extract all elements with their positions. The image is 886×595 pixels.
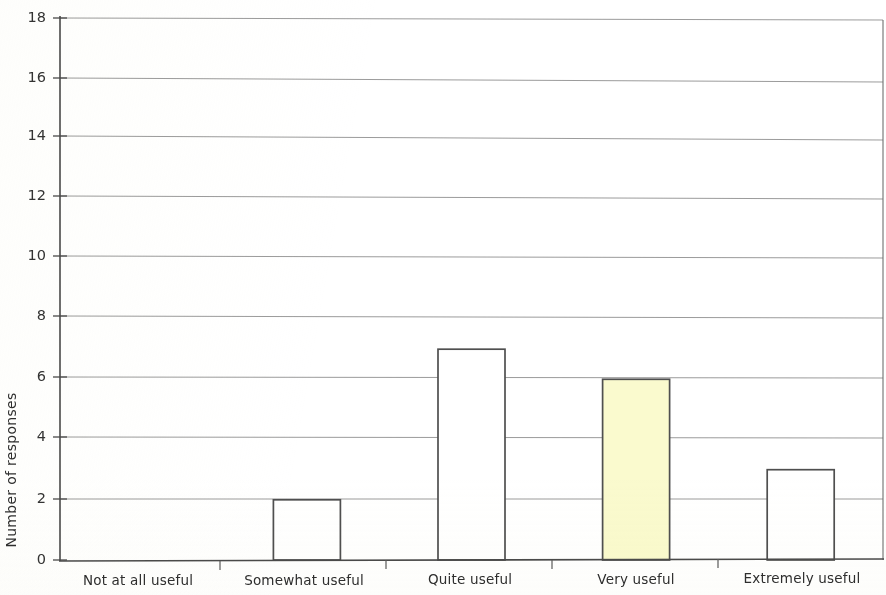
y-tick-label: 6 bbox=[37, 368, 46, 384]
bar-not-at-all-useful bbox=[273, 500, 340, 560]
y-tick-labels: 18 16 14 12 10 8 6 4 2 0 bbox=[28, 9, 46, 567]
x-tick-label-extremely-useful: Extremely useful bbox=[743, 570, 860, 586]
x-tick-labels: Not at all useful Somewhat useful Quite … bbox=[83, 570, 861, 588]
y-tick-label: 8 bbox=[37, 307, 46, 323]
y-tick-label: 18 bbox=[28, 9, 46, 25]
y-tick-label: 4 bbox=[37, 428, 46, 444]
x-axis-line bbox=[59, 559, 884, 561]
gridline-10 bbox=[60, 256, 883, 258]
gridline-12 bbox=[60, 196, 883, 199]
bar-somewhat-useful bbox=[438, 349, 505, 560]
y-axis-title: Number of responses bbox=[3, 392, 19, 547]
gridline-16 bbox=[60, 78, 883, 82]
y-tick-label: 10 bbox=[28, 247, 46, 263]
gridline-14 bbox=[60, 136, 883, 140]
gridline-18 bbox=[60, 18, 883, 20]
gridline-8 bbox=[60, 316, 883, 318]
x-tick-label-quite-useful: Quite useful bbox=[428, 571, 512, 587]
y-tick-label: 16 bbox=[28, 69, 46, 85]
x-tick-label-very-useful: Very useful bbox=[597, 571, 674, 587]
bars bbox=[273, 349, 834, 560]
y-tick-label: 0 bbox=[37, 551, 46, 567]
chart-canvas: 18 16 14 12 10 8 6 4 2 0 Number of respo… bbox=[0, 0, 886, 595]
bar-quite-useful bbox=[603, 379, 670, 560]
y-tick-label: 2 bbox=[37, 490, 46, 506]
bar-chart: 18 16 14 12 10 8 6 4 2 0 Number of respo… bbox=[0, 0, 886, 595]
x-tick-label-not-at-all-useful: Not at all useful bbox=[83, 572, 193, 588]
bar-very-useful bbox=[767, 470, 834, 560]
y-tick-label: 14 bbox=[28, 127, 46, 143]
y-tick-label: 12 bbox=[28, 187, 46, 203]
x-tick-label-somewhat-useful: Somewhat useful bbox=[244, 572, 364, 588]
